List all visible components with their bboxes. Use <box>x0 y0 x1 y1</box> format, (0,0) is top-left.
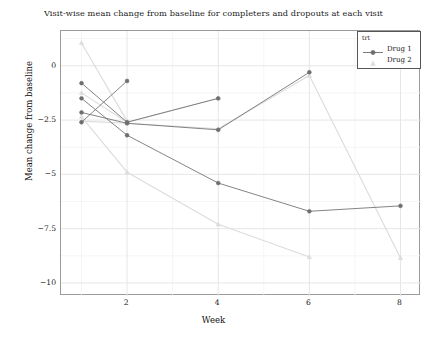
series-drug2-3 <box>79 73 402 260</box>
triangle-marker-icon <box>361 54 385 65</box>
y-tick-label: −10 <box>4 277 56 286</box>
legend-item-label: Drug 2 <box>387 56 412 64</box>
legend: trt Drug 1Drug 2 <box>357 31 421 69</box>
series-drug2-1 <box>79 91 220 124</box>
series-drug1-5 <box>80 81 221 124</box>
y-tick-label: −5 <box>4 169 56 178</box>
legend-item-drug-2[interactable]: Drug 2 <box>361 54 417 65</box>
x-axis-title: Week <box>0 315 427 325</box>
x-axis-tick-labels: 2468 <box>0 298 427 314</box>
series-drug1-7 <box>80 96 403 213</box>
chart-title: Visit-wise mean change from baseline for… <box>0 8 427 18</box>
y-tick-label: 0 <box>4 60 56 69</box>
legend-items: Drug 1Drug 2 <box>361 43 417 65</box>
x-tick-label: 4 <box>197 298 237 307</box>
x-tick-label: 6 <box>288 298 328 307</box>
x-tick-label: 8 <box>379 298 419 307</box>
plot-panel <box>60 30 420 295</box>
chart-figure: Visit-wise mean change from baseline for… <box>0 0 427 337</box>
series-drug2-2 <box>79 114 311 258</box>
circle-marker-icon <box>361 43 385 54</box>
plot-canvas <box>61 31 421 296</box>
legend-item-label: Drug 1 <box>387 45 412 53</box>
y-axis-tick-labels: 0−2.5−5−7.5−10 <box>0 0 56 337</box>
x-tick-label: 2 <box>106 298 146 307</box>
series-drug2-0 <box>79 41 129 123</box>
gridlines <box>61 31 421 296</box>
legend-title: trt <box>362 34 417 42</box>
y-tick-label: −7.5 <box>4 223 56 232</box>
y-tick-label: −2.5 <box>4 115 56 124</box>
legend-item-drug-1[interactable]: Drug 1 <box>361 43 417 54</box>
